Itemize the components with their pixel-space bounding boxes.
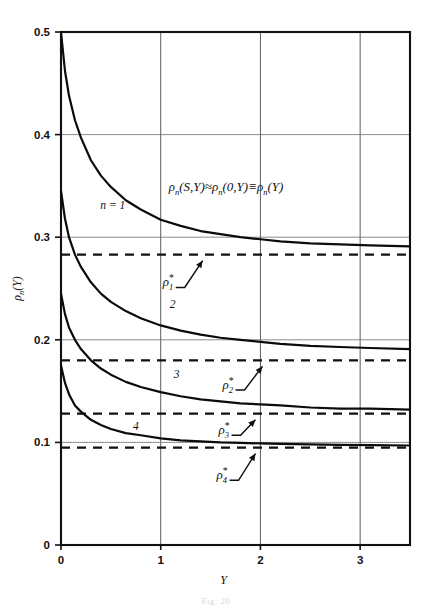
formula-annotation: ρn(S,Y)≈ρn(0,Y)≡ρn(Y) (168, 179, 284, 197)
curve-labels: n = 1234 (100, 199, 179, 432)
curve-4 (61, 365, 410, 445)
annotation-text: ρn(S,Y)≈ρn(0,Y)≡ρn(Y) (168, 179, 284, 197)
curve-label: 2 (170, 298, 176, 310)
y-tick-label: 0.5 (34, 26, 51, 38)
curve-2 (61, 191, 410, 349)
asymptote-label: ρ*3 (218, 420, 230, 440)
asymptote-lines (61, 255, 410, 448)
x-tick-label: 2 (257, 554, 263, 566)
chart-canvas: 012300.10.20.30.40.5 Yρn(Y) n = 1234 ρ*1… (0, 0, 432, 608)
curve-3 (61, 294, 410, 410)
asymptote-label: ρ*4 (216, 465, 228, 485)
tick-labels: 012300.10.20.30.40.5 (34, 26, 363, 566)
x-axis-title: Y (220, 573, 228, 587)
y-tick-label: 0.1 (34, 436, 51, 448)
plot-frame (61, 32, 410, 545)
x-tick-label: 1 (158, 554, 165, 566)
x-tick-label: 0 (58, 554, 64, 566)
annotation-arrows (176, 261, 263, 481)
figure-caption: Fig. 20 (0, 596, 432, 608)
y-tick-label: 0.4 (34, 129, 51, 141)
data-curves (61, 32, 410, 445)
y-axis-title: ρn(Y) (10, 276, 26, 302)
x-tick-label: 3 (357, 554, 363, 566)
y-tick-label: 0.2 (34, 334, 50, 346)
curve-n1 (61, 32, 410, 246)
curve-label: n = 1 (100, 199, 125, 211)
y-tick-label: 0 (44, 539, 50, 551)
asymptote-label: ρ*2 (222, 375, 234, 395)
curve-label: 4 (133, 420, 139, 432)
axis-ticks (55, 32, 360, 550)
figure-container: 012300.10.20.30.40.5 Yρn(Y) n = 1234 ρ*1… (0, 0, 432, 608)
frame-rect (61, 32, 410, 545)
y-tick-label: 0.3 (34, 231, 50, 243)
asymptote-label: ρ*1 (162, 272, 174, 292)
curve-label: 3 (173, 368, 180, 380)
arrow-head (196, 261, 203, 269)
gridlines (61, 32, 410, 545)
svg-text:ρn(Y): ρn(Y) (10, 276, 26, 302)
